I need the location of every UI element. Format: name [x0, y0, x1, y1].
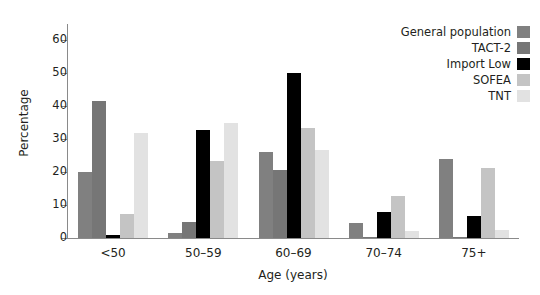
legend-color-swatch — [517, 42, 530, 54]
bar — [377, 212, 391, 238]
y-axis-tick-label: 20 — [25, 166, 67, 178]
bar — [273, 170, 287, 238]
bar — [182, 222, 196, 238]
y-axis-tick-label: 40 — [25, 100, 67, 112]
bar — [259, 152, 273, 238]
y-axis-tick: 40 — [0, 106, 67, 107]
x-axis-category-label: 60–69 — [248, 246, 338, 260]
bar — [78, 172, 92, 238]
y-axis-tick: 10 — [0, 205, 67, 206]
bar — [467, 216, 481, 238]
bar — [349, 223, 363, 238]
y-axis-tick-label: 30 — [25, 133, 67, 145]
chart-legend: General populationTACT-2Import LowSOFEAT… — [330, 24, 530, 104]
bar — [287, 73, 301, 238]
y-axis-tick-label: 50 — [25, 67, 67, 79]
legend-item-label: Import Low — [447, 57, 511, 71]
legend-item-label: TNT — [488, 89, 511, 103]
bar — [453, 237, 467, 239]
x-axis-category-label: 70–74 — [339, 246, 429, 260]
y-axis-tick-label: 10 — [25, 199, 67, 211]
legend-item-label: General population — [401, 25, 511, 39]
bar-chart: 0102030405060 Percentage Age (years) <50… — [0, 0, 540, 295]
y-axis-title: Percentage — [17, 53, 31, 193]
y-axis-tick: 60 — [0, 40, 67, 41]
bar — [315, 150, 329, 238]
y-axis-tick-label: 60 — [25, 34, 67, 46]
bar — [363, 237, 377, 239]
bar-group — [259, 24, 329, 238]
legend-color-swatch — [517, 58, 530, 70]
y-axis-tick-label: 0 — [25, 232, 67, 244]
y-axis-tick: 20 — [0, 172, 67, 173]
x-axis-title: Age (years) — [67, 268, 519, 282]
legend-item: SOFEA — [330, 72, 530, 87]
x-axis-category-label: 75+ — [429, 246, 519, 260]
legend-item: General population — [330, 24, 530, 39]
bar — [224, 123, 238, 238]
bar — [405, 231, 419, 238]
bar-group — [168, 24, 238, 238]
x-axis-category-label: <50 — [68, 246, 158, 260]
bar — [134, 133, 148, 238]
legend-item: TNT — [330, 88, 530, 103]
legend-item: Import Low — [330, 56, 530, 71]
bar — [301, 128, 315, 238]
legend-color-swatch — [517, 26, 530, 38]
bar — [439, 159, 453, 238]
y-axis-tick: 0 — [0, 238, 67, 239]
legend-color-swatch — [517, 74, 530, 86]
y-axis-tick: 30 — [0, 139, 67, 140]
legend-item-label: SOFEA — [473, 73, 511, 87]
x-axis-category-label: 50–59 — [158, 246, 248, 260]
x-axis-line — [67, 238, 519, 239]
bar — [495, 230, 509, 238]
legend-item-label: TACT-2 — [472, 41, 511, 55]
bar — [120, 214, 134, 238]
bar-group — [78, 24, 148, 238]
y-axis-tick: 50 — [0, 73, 67, 74]
bar — [196, 130, 210, 238]
bar — [391, 196, 405, 238]
legend-color-swatch — [517, 90, 530, 102]
bar — [168, 233, 182, 238]
bar — [210, 161, 224, 238]
bar — [481, 168, 495, 238]
bar — [106, 235, 120, 238]
legend-item: TACT-2 — [330, 40, 530, 55]
bar — [92, 101, 106, 238]
